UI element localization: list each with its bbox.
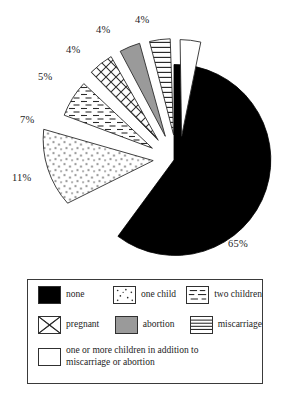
- pie-label-combination: 4%: [135, 14, 149, 25]
- pie-chart: 65% 11% 7% 5% 4% 4% 4%: [0, 0, 287, 272]
- legend-label: two children: [214, 289, 262, 301]
- pie-label-abortion: 4%: [66, 44, 80, 55]
- legend-swatch-solid-black: [38, 286, 61, 304]
- pie-label-pregnant: 5%: [38, 71, 52, 82]
- legend-item-none: none: [38, 286, 113, 304]
- legend-label: one child: [141, 289, 176, 301]
- pie-label-one-child: 11%: [12, 172, 31, 183]
- legend-label: miscarriage: [218, 319, 262, 331]
- pie-chart-svg: [0, 0, 287, 272]
- legend-swatch-cross-hatch: [38, 316, 61, 334]
- pie-label-none: 65%: [228, 238, 248, 249]
- legend-label: one or more children in addition to misc…: [66, 345, 226, 368]
- legend-item-abortion: abortion: [115, 316, 190, 334]
- legend-swatch-dashed-horizontal: [186, 286, 209, 304]
- legend-label: abortion: [143, 319, 175, 331]
- legend-item-pregnant: pregnant: [38, 316, 115, 334]
- legend-row: one or more children in addition to misc…: [28, 340, 262, 380]
- legend-swatch-solid-gray: [115, 316, 138, 334]
- legend-swatch-sparse-dots: [113, 286, 136, 304]
- chart-legend: none one child: [27, 279, 263, 384]
- legend-row: pregnant abortion miscarriage: [28, 310, 262, 340]
- legend-item-miscarriage: miscarriage: [190, 316, 262, 334]
- legend-item-combination: one or more children in addition to misc…: [38, 345, 226, 368]
- legend-label: pregnant: [66, 319, 99, 331]
- legend-label: none: [66, 289, 84, 301]
- pie-label-miscarriage: 4%: [96, 24, 110, 35]
- legend-swatch-horizontal-lines: [190, 316, 213, 334]
- legend-swatch-white-blank: [38, 348, 61, 366]
- legend-item-two-children: two children: [186, 286, 262, 304]
- legend-item-one-child: one child: [113, 286, 186, 304]
- pie-label-two-children: 7%: [20, 114, 34, 125]
- legend-row: none one child: [28, 280, 262, 310]
- pie-slice-miscarriage: [150, 39, 174, 135]
